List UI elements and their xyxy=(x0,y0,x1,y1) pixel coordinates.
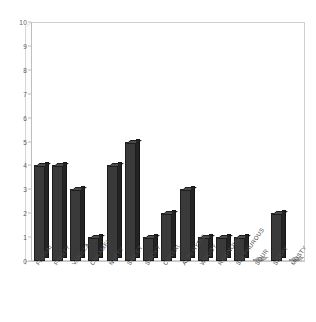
x-axis-labels: FLORALFRUITYVANILLACARAMELNUTTYSWEETSMOK… xyxy=(31,263,305,321)
bar-side-face xyxy=(136,139,140,259)
bar xyxy=(34,165,45,261)
bar xyxy=(125,142,136,262)
bar-side-face xyxy=(118,162,122,258)
bar-chart: 012345678910 FLORALFRUITYVANILLACARAMELN… xyxy=(0,0,316,322)
bar xyxy=(107,165,118,261)
bars-layer xyxy=(31,22,305,261)
